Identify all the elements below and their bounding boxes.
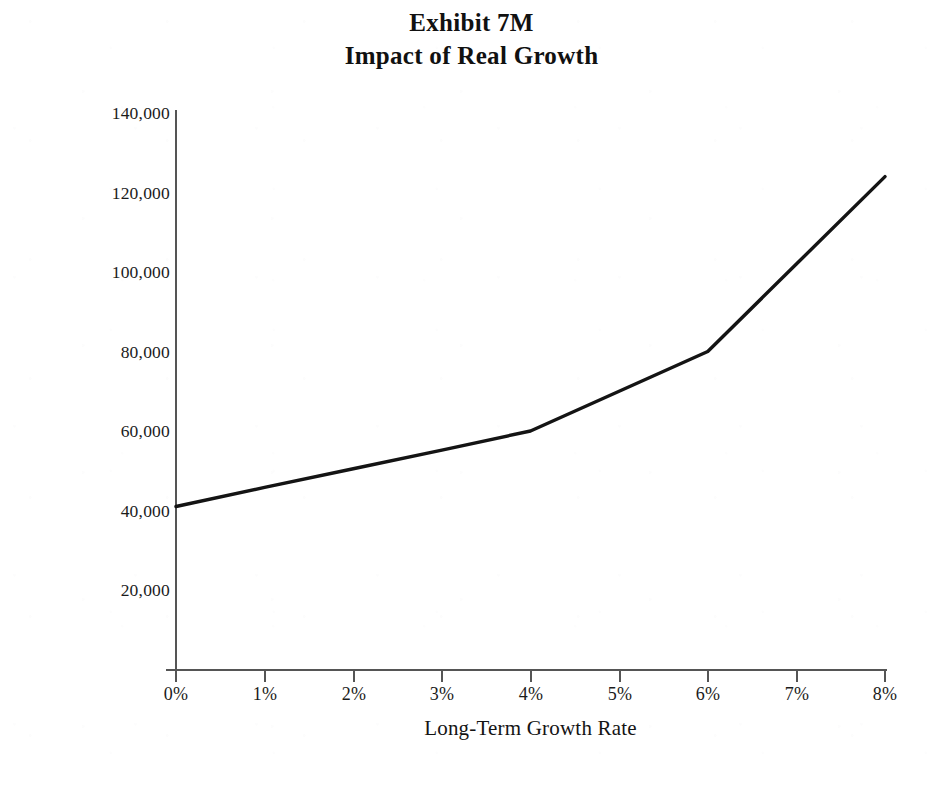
y-tick-label: 20,000 bbox=[84, 580, 170, 601]
y-tick-label: 80,000 bbox=[84, 342, 170, 363]
chart-figure: Exhibit 7M Impact of Real Growth 140,000… bbox=[0, 0, 943, 791]
x-tick-label: 2% bbox=[324, 684, 384, 705]
x-tick-label: 7% bbox=[767, 684, 827, 705]
series-line-capitalized-cash-flow bbox=[176, 177, 885, 507]
y-tick-label: 40,000 bbox=[84, 501, 170, 522]
y-tick-label: 140,000 bbox=[84, 103, 170, 124]
x-tick-label: 1% bbox=[235, 684, 295, 705]
y-tick-label: 60,000 bbox=[84, 421, 170, 442]
x-tick-label: 4% bbox=[501, 684, 561, 705]
x-tick-label: 3% bbox=[412, 684, 472, 705]
x-axis-ticks bbox=[176, 670, 885, 682]
x-tick-label: 5% bbox=[590, 684, 650, 705]
y-tick-label: 100,000 bbox=[84, 262, 170, 283]
y-tick-label: 120,000 bbox=[84, 183, 170, 204]
x-axis-title: Long-Term Growth Rate bbox=[176, 716, 885, 741]
x-tick-label: 0% bbox=[146, 684, 206, 705]
x-tick-label: 6% bbox=[678, 684, 738, 705]
x-tick-label: 8% bbox=[855, 684, 915, 705]
